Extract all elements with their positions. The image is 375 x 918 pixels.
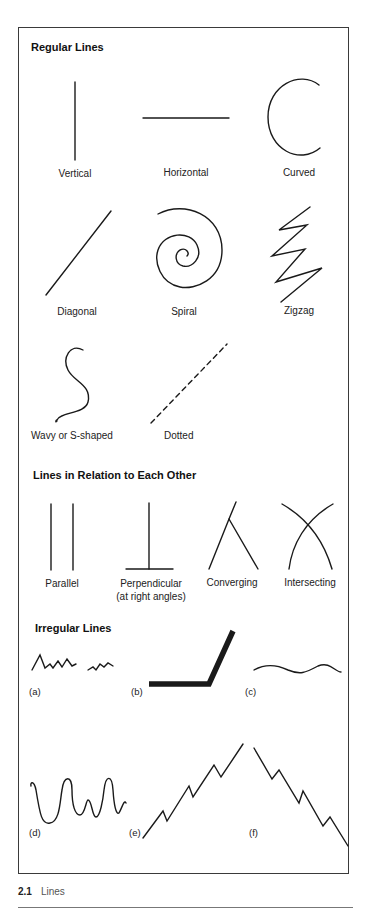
label-wavy: Wavy or S-shaped [31,430,113,441]
irregular-line-d-icon [31,778,126,823]
heading-irregular-lines: Irregular Lines [35,622,111,634]
label-perpendicular: Perpendicular [119,578,183,589]
label-intersecting: Intersecting [282,577,338,588]
zigzag-line-icon [272,207,322,302]
intersecting-line-a-icon [282,504,332,569]
converging-lines-icon [209,502,236,569]
irregular-line-c-icon [254,665,341,673]
tag-f: (f) [249,827,258,838]
label-zigzag: Zigzag [281,305,317,316]
dotted-line-icon [151,344,227,423]
heading-regular-lines: Regular Lines [31,41,104,53]
label-perpendicular-sub: (at right angles) [115,591,187,602]
tag-c: (c) [245,686,256,697]
label-parallel: Parallel [42,578,82,589]
irregular-line-a-icon [32,655,113,670]
irregular-line-b-icon [149,631,233,684]
label-vertical: Vertical [55,168,95,179]
wavy-line-icon [56,348,89,422]
figure-title: Lines [41,886,65,897]
label-curved: Curved [278,167,320,178]
converging-branch-icon [229,519,258,569]
tag-e: (e) [129,827,141,838]
figure-caption: 2.1Lines [18,886,65,897]
line-illustrations [0,0,375,918]
label-spiral: Spiral [164,306,204,317]
diagonal-line-icon [46,211,111,295]
heading-lines-in-relation: Lines in Relation to Each Other [33,469,196,481]
caption-rule [18,907,353,908]
label-diagonal: Diagonal [54,306,100,317]
figure-number: 2.1 [18,886,32,897]
label-converging: Converging [206,577,258,588]
label-dotted: Dotted [164,430,204,441]
label-horizontal: Horizontal [158,167,214,178]
irregular-line-e-icon [143,744,243,838]
spiral-line-icon [157,209,222,288]
curved-line-icon [268,79,320,155]
tag-d: (d) [29,827,41,838]
irregular-line-f-icon [254,748,348,846]
tag-b: (b) [131,686,143,697]
tag-a: (a) [29,686,41,697]
